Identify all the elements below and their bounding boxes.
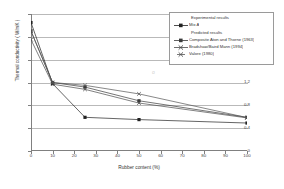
y-axis-title: Thermal conductivity ( W/mK ) xyxy=(15,3,20,99)
x-tick-label: 70 xyxy=(173,154,191,158)
legend-group-predicted: Predicted results xyxy=(173,29,270,36)
legend-marker-cross-icon xyxy=(173,51,189,58)
legend-group-label: Experimental results xyxy=(173,16,229,21)
x-tick-label: 80 xyxy=(195,154,213,158)
data-point xyxy=(31,21,33,24)
thermal-conductivity-chart: Thermal conductivity ( W/mK ) 2.4 2 1.6 … xyxy=(0,0,284,189)
data-point xyxy=(83,116,86,119)
data-point xyxy=(137,118,140,121)
legend-label: Valore (1980) xyxy=(189,52,214,57)
stray-mark: o xyxy=(152,69,155,75)
legend-marker-cross-icon xyxy=(173,44,189,51)
legend-item-bradshaw-baird-mann[interactable]: Bradshaw/Baird Mann (1994) xyxy=(173,44,270,51)
legend-label: Composite Aton and Thorne (1963) xyxy=(189,38,254,43)
legend-item-aton-thorne[interactable]: Composite Aton and Thorne (1963) xyxy=(173,37,270,44)
legend-marker-square-icon xyxy=(173,37,189,44)
legend-group-experimental: Experimental results xyxy=(173,15,270,22)
legend-item-valore[interactable]: Valore (1980) xyxy=(173,51,270,58)
x-tick-label: 0 xyxy=(22,154,40,158)
legend-item-mix-a[interactable]: Mix A xyxy=(173,22,270,29)
legend-label: Bradshaw/Baird Mann (1994) xyxy=(189,45,243,50)
x-tick-label: 60 xyxy=(152,154,170,158)
legend-marker-square-icon xyxy=(173,22,189,29)
x-tick-label: 10 xyxy=(44,154,62,158)
x-tick-label: 90 xyxy=(216,154,234,158)
x-tick-label: 20 xyxy=(65,154,83,158)
x-tick-label: 100 xyxy=(238,154,256,158)
legend-label: Mix A xyxy=(189,23,199,28)
x-tick-label: 40 xyxy=(108,154,126,158)
legend: Experimental results Mix A Predicted res… xyxy=(169,12,274,65)
legend-group-label: Predicted results xyxy=(173,31,222,36)
x-tick-label: 50 xyxy=(130,154,148,158)
x-tick-label: 30 xyxy=(87,154,105,158)
data-point xyxy=(245,121,247,124)
x-axis-title: Rubber content (%) xyxy=(31,165,247,170)
